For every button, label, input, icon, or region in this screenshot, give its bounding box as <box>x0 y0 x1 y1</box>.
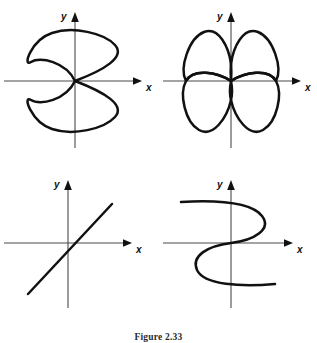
right-lobe-curve <box>230 73 279 132</box>
upper-lobe-curve <box>28 30 118 81</box>
y-axis-arrowhead <box>227 180 235 190</box>
y-axis-label: y <box>53 179 60 190</box>
figure-sheet: y x y x y x <box>0 0 317 343</box>
lower-lobe-curve <box>28 81 118 132</box>
x-axis-label: x <box>135 244 142 255</box>
x-axis-label: x <box>145 82 152 93</box>
horizontal-figure-eight-plot: y x <box>159 0 317 160</box>
y-axis-arrowhead <box>227 12 235 22</box>
x-axis-label: x <box>304 82 311 93</box>
left-lobe-upper-curve <box>184 31 232 81</box>
sideways-s-curve-plot: y x <box>159 168 317 313</box>
right-lobe-upper-curve <box>231 31 279 81</box>
x-axis-arrowhead <box>123 239 132 247</box>
figure-caption: Figure 2.33 <box>0 331 317 343</box>
panel-4-canvas: y x <box>159 168 317 313</box>
panel-3-canvas: y x <box>0 168 158 313</box>
straight-line-plot: y x <box>0 168 158 313</box>
x-axis-label: x <box>296 244 303 255</box>
x-axis-arrowhead <box>284 239 293 247</box>
y-axis-arrowhead <box>71 12 79 22</box>
vertical-figure-eight-plot: y x <box>0 0 158 160</box>
y-axis-arrowhead <box>64 180 72 190</box>
panel-1-canvas: y x <box>0 0 158 160</box>
x-axis-arrowhead <box>133 77 142 85</box>
line-curve <box>28 204 112 294</box>
panel-2-canvas: y x <box>159 0 317 160</box>
y-axis-label: y <box>60 11 67 22</box>
left-lobe-curve <box>183 73 232 132</box>
y-axis-label: y <box>216 179 223 190</box>
x-axis-arrowhead <box>292 77 301 85</box>
y-axis-label: y <box>216 11 223 22</box>
